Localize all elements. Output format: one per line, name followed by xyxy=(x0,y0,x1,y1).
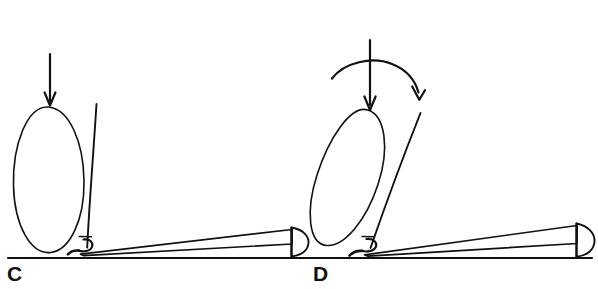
panel-d-group xyxy=(292,40,595,257)
panel-label-c: C xyxy=(7,263,22,284)
diagram-svg xyxy=(0,0,598,289)
stem-line-icon xyxy=(371,113,421,248)
base-hook-icon xyxy=(350,237,377,256)
tapered-wedge-icon xyxy=(365,226,578,257)
force-arrow-icon xyxy=(45,54,56,106)
stem-line-icon xyxy=(87,104,96,248)
panel-label-d: D xyxy=(313,263,328,284)
panel-c-group xyxy=(13,54,308,257)
half-dome-cap-icon xyxy=(292,228,309,257)
rotation-arrow-icon xyxy=(332,61,425,100)
figure-canvas: C D xyxy=(0,0,598,289)
tapered-wedge-icon xyxy=(81,230,293,256)
sac-outline-icon xyxy=(310,109,384,245)
sac-outline-icon xyxy=(13,107,84,253)
half-dome-cap-icon xyxy=(577,224,595,258)
base-hook-icon xyxy=(68,237,92,255)
force-arrow-icon xyxy=(364,40,375,110)
